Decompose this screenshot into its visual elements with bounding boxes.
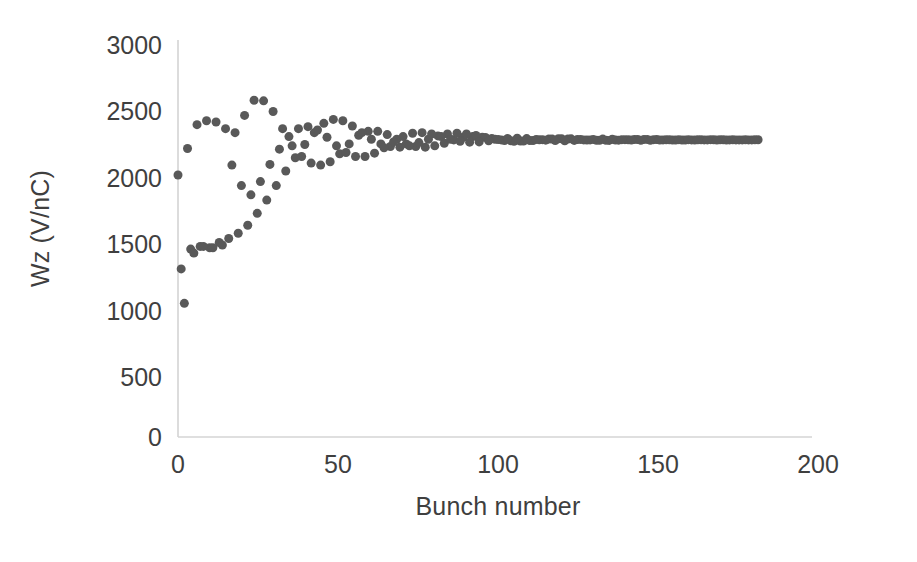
data-point <box>361 152 370 161</box>
data-point <box>246 190 255 199</box>
data-point <box>399 132 408 141</box>
data-point <box>522 134 531 143</box>
data-point <box>598 135 607 144</box>
data-point <box>208 243 217 252</box>
data-point <box>430 141 439 150</box>
data-point <box>465 138 474 147</box>
data-point <box>345 139 354 148</box>
data-point <box>627 136 636 145</box>
data-point <box>256 177 265 186</box>
data-point <box>174 170 183 179</box>
data-point <box>177 264 186 273</box>
data-point <box>221 124 230 133</box>
data-point <box>405 141 414 150</box>
data-point <box>731 135 740 144</box>
data-point <box>231 128 240 137</box>
data-point <box>617 135 626 144</box>
data-point <box>655 136 664 145</box>
data-point <box>199 242 208 251</box>
data-point <box>646 136 655 145</box>
data-point <box>570 136 579 145</box>
data-point-group <box>174 96 763 308</box>
data-point <box>322 133 331 142</box>
data-point <box>265 160 274 169</box>
data-point <box>541 136 550 145</box>
data-point <box>234 229 243 238</box>
data-point <box>303 122 312 131</box>
data-point <box>243 221 252 230</box>
data-point <box>329 115 338 124</box>
data-point <box>414 138 423 147</box>
data-point <box>193 120 202 129</box>
data-point <box>589 135 598 144</box>
data-point <box>373 127 382 136</box>
data-point <box>250 96 259 105</box>
data-point <box>712 136 721 145</box>
data-point <box>202 116 211 125</box>
data-point <box>446 135 455 144</box>
data-point <box>722 136 731 145</box>
data-point <box>326 157 335 166</box>
data-point <box>348 122 357 131</box>
data-point <box>281 167 290 176</box>
data-point <box>189 249 198 258</box>
data-point <box>383 130 392 139</box>
chart-figure: Wz (V/nC) 3000 2500 2000 1500 1000 500 0… <box>0 0 917 562</box>
data-point <box>224 234 233 243</box>
data-point <box>693 135 702 144</box>
data-point <box>351 152 360 161</box>
data-point <box>532 135 541 144</box>
data-point <box>278 124 287 133</box>
data-point <box>227 161 236 170</box>
data-point <box>253 209 262 218</box>
data-point <box>418 128 427 137</box>
data-point <box>462 129 471 138</box>
data-point <box>342 148 351 157</box>
data-point <box>494 135 503 144</box>
data-point <box>636 136 645 145</box>
data-point <box>338 116 347 125</box>
data-point <box>269 107 278 116</box>
data-point <box>237 181 246 190</box>
data-point <box>275 145 284 154</box>
data-point <box>307 159 316 168</box>
data-point <box>380 143 389 152</box>
data-point <box>750 135 759 144</box>
data-point <box>665 135 674 144</box>
data-point <box>284 132 293 141</box>
data-point <box>684 135 693 144</box>
data-point <box>608 135 617 144</box>
data-point <box>259 96 268 105</box>
data-point <box>674 135 683 144</box>
data-point <box>579 135 588 144</box>
data-point <box>300 140 309 149</box>
data-point <box>212 118 221 127</box>
data-point <box>262 196 271 205</box>
data-point <box>408 129 417 138</box>
data-point <box>484 136 493 145</box>
data-point <box>294 124 303 133</box>
plot-area <box>0 0 917 562</box>
data-point <box>367 135 376 144</box>
data-point <box>316 161 325 170</box>
data-point <box>370 149 379 158</box>
data-point <box>319 119 328 128</box>
data-point <box>741 135 750 144</box>
data-point <box>427 129 436 138</box>
data-point <box>240 111 249 120</box>
data-point <box>313 125 322 134</box>
data-point <box>357 128 366 137</box>
data-point <box>183 144 192 153</box>
data-point <box>513 134 522 143</box>
data-point <box>218 241 227 250</box>
data-point <box>560 136 569 145</box>
data-point <box>551 136 560 145</box>
data-point <box>475 137 484 146</box>
data-point <box>703 135 712 144</box>
data-point <box>272 181 281 190</box>
data-point <box>456 137 465 146</box>
data-point <box>291 153 300 162</box>
data-point <box>288 141 297 150</box>
data-point <box>503 134 512 143</box>
data-point <box>437 132 446 141</box>
